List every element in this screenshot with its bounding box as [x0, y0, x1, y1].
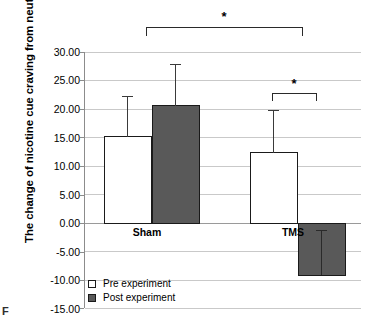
error-bar-sham-pre [127, 96, 128, 137]
bar-tms-pre [250, 152, 298, 224]
bar-sham-post [152, 105, 200, 224]
y-tick-label-neg5: -5.00 [34, 247, 80, 257]
gridline-30 [85, 52, 361, 53]
y-tick-label-20: 20.00 [34, 104, 80, 114]
y-tick-mark [80, 308, 84, 309]
error-bar-cap-sham-pre [122, 96, 133, 97]
legend-item-pre: Pre experiment [88, 277, 175, 290]
legend-swatch-pre-icon [88, 280, 96, 288]
error-bar-cap-tms-pre [268, 110, 279, 111]
y-tick-label-30: 30.00 [34, 47, 80, 57]
y-tick-label-0: 0.00 [34, 218, 80, 228]
category-label-tms: TMS [257, 226, 329, 238]
y-tick-label-15: 15.00 [34, 133, 80, 143]
error-bar-sham-post [175, 64, 176, 106]
figure-nicotine-cue-craving: The change of nicotine cue craving from … [0, 0, 378, 330]
significance-bracket-between-groups [146, 27, 303, 36]
y-axis-tick-labels: 30.00 25.00 20.00 15.00 10.00 5.00 0.00 … [32, 0, 80, 330]
legend-label-pre: Pre experiment [103, 278, 171, 289]
cropped-caption-artifact: F [2, 306, 28, 324]
significance-star-between-groups: * [196, 10, 252, 23]
bar-sham-pre [104, 136, 152, 224]
y-tick-label-neg15: -15.00 [34, 304, 80, 314]
y-tick-label-neg10: -10.00 [34, 275, 80, 285]
y-tick-label-25: 25.00 [34, 75, 80, 85]
error-bar-cap-sham-post [170, 64, 181, 65]
error-bar-tms-pre [273, 110, 274, 153]
category-label-sham: Sham [111, 226, 183, 238]
legend-swatch-post-icon [88, 294, 96, 302]
y-tick-label-10: 10.00 [34, 161, 80, 171]
plot-area [84, 52, 360, 308]
y-tick-label-5: 5.00 [34, 190, 80, 200]
significance-bracket-tms [272, 93, 317, 101]
legend-item-post: Post experiment [88, 291, 175, 304]
significance-star-tms: * [266, 77, 322, 90]
gridline-neg15 [85, 308, 361, 309]
legend-label-post: Post experiment [103, 292, 175, 303]
legend: Pre experiment Post experiment [88, 277, 175, 305]
